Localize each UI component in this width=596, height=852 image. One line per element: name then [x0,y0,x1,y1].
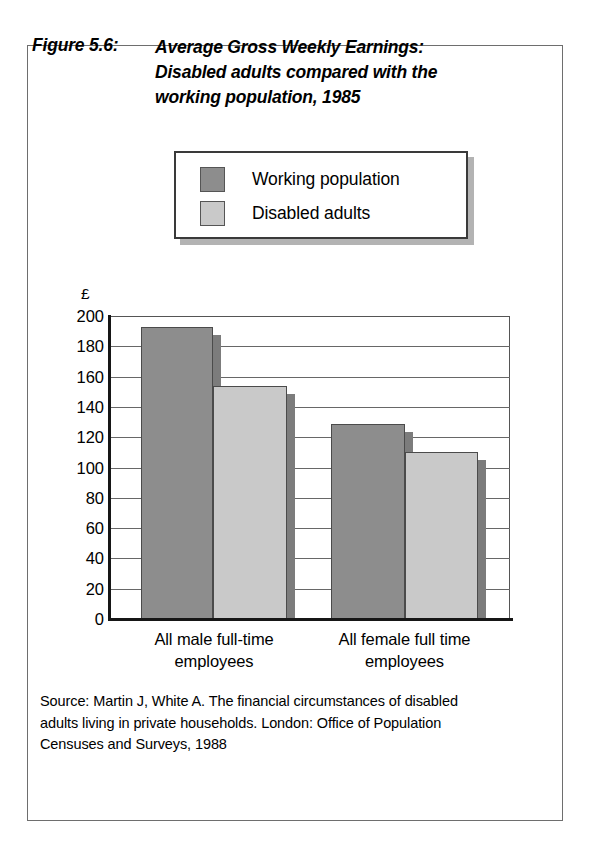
x-axis-category-labels: All male full-timeemployeesAll female fu… [110,628,510,680]
y-tick-label-200: 200 [76,308,104,324]
figure-title-line-3: working population, 1985 [155,85,505,110]
y-axis-unit-label: £ [81,285,90,303]
legend-label-disabled-adults: Disabled adults [252,203,370,224]
legend-swatch-disabled-adults [200,201,225,226]
figure-number: Figure 5.6: [32,35,118,56]
bar-1-0[interactable] [213,386,287,619]
x-category-label-0-line-1: employees [104,650,324,672]
source-note: Source: Martin J, White A. The financial… [40,691,510,756]
y-tick-label-20: 20 [86,581,104,597]
x-category-label-0: All male full-timeemployees [104,628,324,672]
legend-swatch-working-population [200,167,225,192]
y-tick-label-160: 160 [76,369,104,385]
y-tick-label-0: 0 [95,611,104,627]
source-line-3: Censuses and Surveys, 1988 [40,734,510,756]
y-tick-label-100: 100 [76,460,104,476]
bar-shadow [287,394,295,619]
y-tick-label-120: 120 [76,429,104,445]
figure-page: Figure 5.6: Average Gross Weekly Earning… [0,0,596,852]
figure-title: Average Gross Weekly Earnings: Disabled … [155,35,505,110]
y-tick-label-180: 180 [76,338,104,354]
y-tick-label-140: 140 [76,399,104,415]
y-axis-tick-labels: 200180160140120100806040200 [0,316,104,619]
x-axis-line [108,618,513,621]
x-category-label-1-line-0: All female full time [295,628,515,650]
y-tick-label-60: 60 [86,520,104,536]
x-category-label-1: All female full timeemployees [295,628,515,672]
y-tick-label-40: 40 [86,550,104,566]
legend-item-disabled-adults: Disabled adults [200,200,370,226]
bar-shadow [478,460,486,619]
figure-title-line-2: Disabled adults compared with the [155,60,505,85]
figure-title-line-1: Average Gross Weekly Earnings: [155,35,505,60]
x-category-label-0-line-0: All male full-time [104,628,324,650]
bar-0-1[interactable] [331,424,405,619]
chart-legend: Working population Disabled adults [174,151,468,239]
legend-item-working-population: Working population [200,166,400,192]
legend-label-working-population: Working population [252,169,400,190]
source-line-2: adults living in private households. Lon… [40,713,510,735]
y-tick-label-80: 80 [86,490,104,506]
chart-plot-area [110,316,510,619]
x-category-label-1-line-1: employees [295,650,515,672]
bar-0-0[interactable] [141,327,213,619]
source-line-1: Source: Martin J, White A. The financial… [40,691,510,713]
bar-1-1[interactable] [405,452,478,619]
y-axis-line [108,315,111,620]
